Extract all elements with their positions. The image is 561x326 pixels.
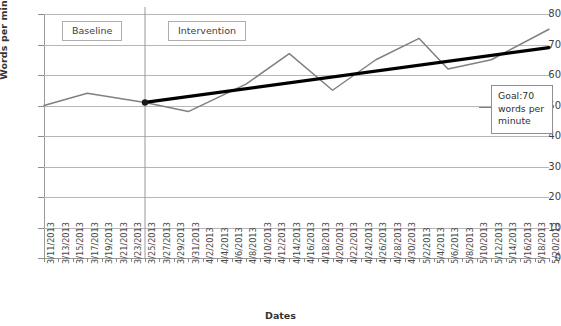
x-tick-label: 5/10/2013	[480, 222, 488, 264]
x-tick-mark	[159, 258, 160, 262]
x-tick-label: 4/10/2013	[264, 222, 272, 264]
x-tick-mark	[87, 258, 88, 262]
x-tick-label: 4/18/2013	[322, 222, 330, 264]
chart-container: Words per minute 80706050403020100 3/11/…	[0, 0, 561, 326]
x-tick-label: 3/25/2013	[148, 222, 156, 264]
x-tick-label: 3/27/2013	[163, 222, 171, 264]
x-tick-mark	[44, 258, 45, 262]
x-tick-mark	[318, 258, 319, 262]
x-tick-label: 4/2/2013	[206, 227, 214, 264]
x-tick-label: 3/13/2013	[62, 222, 70, 264]
x-tick-label: 4/6/2013	[235, 227, 243, 264]
x-tick-mark	[448, 258, 449, 262]
x-tick-mark	[376, 258, 377, 262]
x-tick-label: 5/4/2013	[437, 227, 445, 264]
data-series-line	[44, 29, 549, 111]
goal-callout-leader	[479, 107, 491, 108]
x-tick-label: 5/18/2013	[538, 222, 546, 264]
x-tick-label: 4/14/2013	[293, 222, 301, 264]
x-tick-mark	[131, 258, 132, 262]
x-tick-mark	[174, 258, 175, 262]
x-tick-label: 5/8/2013	[466, 227, 474, 264]
goal-text-line-1: Goal:70	[498, 90, 546, 103]
goal-text-line-2: words per	[498, 103, 546, 116]
x-tick-label: 4/24/2013	[365, 222, 373, 264]
x-tick-mark	[260, 258, 261, 262]
x-tick-mark	[419, 258, 420, 262]
x-tick-mark	[304, 258, 305, 262]
x-tick-label: 3/17/2013	[91, 222, 99, 264]
x-tick-mark	[520, 258, 521, 262]
goal-trend-line	[145, 48, 549, 103]
x-tick-mark	[275, 258, 276, 262]
x-tick-mark	[477, 258, 478, 262]
phase-label-intervention: Intervention	[168, 21, 246, 41]
x-tick-mark	[390, 258, 391, 262]
x-tick-mark	[333, 258, 334, 262]
x-tick-mark	[73, 258, 74, 262]
x-tick-mark	[535, 258, 536, 262]
x-axis-title: Dates	[0, 310, 561, 321]
x-tick-label: 3/31/2013	[192, 222, 200, 264]
x-tick-mark	[491, 258, 492, 262]
x-tick-mark	[405, 258, 406, 262]
goal-callout: Goal:70 words per minute	[491, 85, 553, 134]
x-tick-label: 3/21/2013	[120, 222, 128, 264]
x-tick-mark	[145, 258, 146, 262]
x-tick-label: 4/8/2013	[249, 227, 257, 264]
x-tick-label: 5/20/2013	[552, 222, 560, 264]
x-tick-label: 4/16/2013	[307, 222, 315, 264]
x-tick-label: 3/23/2013	[134, 222, 142, 264]
x-tick-mark	[289, 258, 290, 262]
x-tick-mark	[361, 258, 362, 262]
data-point-marker	[142, 99, 148, 105]
x-tick-mark	[217, 258, 218, 262]
x-tick-label: 4/30/2013	[408, 222, 416, 264]
x-tick-mark	[116, 258, 117, 262]
x-tick-label: 3/19/2013	[105, 222, 113, 264]
x-tick-mark	[506, 258, 507, 262]
phase-label-baseline: Baseline	[62, 21, 122, 41]
x-tick-label: 4/20/2013	[336, 222, 344, 264]
x-tick-label: 4/4/2013	[221, 227, 229, 264]
x-tick-label: 4/22/2013	[350, 222, 358, 264]
x-tick-mark	[347, 258, 348, 262]
x-tick-label: 4/28/2013	[394, 222, 402, 264]
x-tick-label: 5/14/2013	[509, 222, 517, 264]
x-tick-mark	[549, 258, 550, 262]
x-tick-label: 5/6/2013	[451, 227, 459, 264]
goal-text-line-3: minute	[498, 115, 546, 128]
x-tick-label: 5/12/2013	[495, 222, 503, 264]
y-axis-title: Words per minute	[0, 0, 9, 86]
x-tick-mark	[188, 258, 189, 262]
x-tick-mark	[232, 258, 233, 262]
x-tick-label: 3/11/2013	[47, 222, 55, 264]
x-tick-label: 4/12/2013	[278, 222, 286, 264]
x-tick-mark	[462, 258, 463, 262]
x-tick-label: 3/29/2013	[177, 222, 185, 264]
x-tick-label: 5/2/2013	[423, 227, 431, 264]
x-tick-mark	[58, 258, 59, 262]
x-tick-label: 5/16/2013	[524, 222, 532, 264]
x-tick-label: 3/15/2013	[76, 222, 84, 264]
x-tick-mark	[203, 258, 204, 262]
x-tick-mark	[102, 258, 103, 262]
x-tick-mark	[434, 258, 435, 262]
x-tick-label: 4/26/2013	[379, 222, 387, 264]
x-tick-mark	[246, 258, 247, 262]
